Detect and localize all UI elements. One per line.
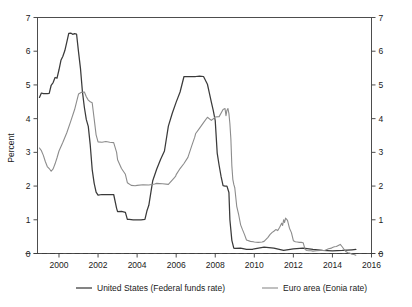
y-tick-label-left: 1 [26,215,31,225]
y-tick-label-left: 4 [26,114,31,124]
x-tick-label: 2008 [206,260,225,270]
x-tick-label: 2004 [128,260,147,270]
y-axis-title-label: Percent [6,133,16,163]
x-tick-label: 2016 [362,260,381,270]
y-tick-label-left: 6 [26,46,31,56]
legend-label-united-states: United States (Federal funds rate) [97,283,225,293]
y-tick-label-left: 5 [26,80,31,90]
y-tick-label-right: 7 [379,13,384,23]
y-tick-label-right: 1 [379,215,384,225]
y-tick-label-right: 5 [379,80,384,90]
y-axis-title: Percent [6,133,16,163]
legend-label-euro-area: Euro area (Eonia rate) [283,283,367,293]
chart-legend: United States (Federal funds rate)Euro a… [76,283,367,293]
x-tick-label: 2000 [50,260,69,270]
interest-rate-line-chart: 01234567 01234567 2000200220042006200820… [0,0,412,307]
y-axis-left-ticks: 01234567 [26,13,38,259]
series-line-euro-area [39,92,355,255]
plot-frame [38,18,372,254]
x-tick-label: 2010 [245,260,264,270]
y-tick-label-left: 3 [26,147,31,157]
series-line-united-states [39,33,355,251]
x-tick-label: 2002 [89,260,108,270]
data-series-group [39,33,355,255]
x-tick-label: 2012 [284,260,303,270]
y-tick-label-right: 3 [379,147,384,157]
y-tick-label-right: 2 [379,181,384,191]
y-tick-label-right: 4 [379,114,384,124]
y-tick-label-right: 6 [379,46,384,56]
y-tick-label-left: 7 [26,13,31,23]
y-axis-right-ticks: 01234567 [372,13,384,259]
x-axis-ticks: 200020022004200620082010201220142016 [50,254,382,270]
chart-container: 01234567 01234567 2000200220042006200820… [0,0,412,307]
x-tick-label: 2006 [167,260,186,270]
y-tick-label-left: 2 [26,181,31,191]
x-tick-label: 2014 [323,260,342,270]
